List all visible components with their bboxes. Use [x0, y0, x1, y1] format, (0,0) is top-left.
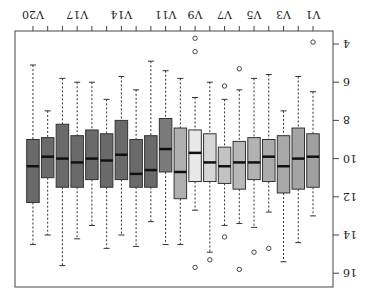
box-v6 [233, 67, 246, 272]
box-body [130, 140, 143, 188]
box-v4 [263, 75, 276, 251]
x-tick-label: V7 [217, 8, 233, 21]
y-tick-label: 14 [343, 228, 357, 241]
box-body [27, 140, 40, 203]
x-tick-label: V5 [247, 8, 263, 21]
box-body [174, 128, 187, 199]
box-v3 [277, 111, 290, 262]
x-tick-label: V17 [66, 8, 89, 21]
box-v20 [27, 65, 40, 245]
outlier-point [252, 250, 256, 254]
box-v1 [307, 40, 320, 216]
outlier-point [208, 258, 212, 262]
chart-canvas: 46810121416 V1V3V5V7V9V11V14V17V20 [0, 0, 366, 293]
outlier-point [193, 36, 197, 40]
box-body [115, 120, 128, 179]
box-v17 [71, 82, 84, 239]
y-tick-label: 16 [343, 266, 357, 279]
outlier-point [193, 265, 197, 269]
y-tick-label: 10 [343, 152, 357, 165]
box-body [248, 138, 261, 180]
box-v7 [218, 84, 231, 239]
box-body [263, 140, 276, 182]
box-v5 [248, 78, 261, 254]
box-body [56, 124, 69, 187]
outlier-point [267, 246, 271, 250]
y-tick-label: 4 [343, 37, 350, 50]
x-axis: V1V3V5V7V9V11V14V17V20 [22, 8, 322, 31]
box-body [86, 130, 99, 180]
outlier-point [193, 49, 197, 53]
box-body [233, 141, 246, 189]
x-tick-label: V1 [306, 8, 322, 21]
box-v11 [159, 71, 172, 245]
box-v8 [204, 82, 217, 262]
box-body [145, 136, 158, 188]
y-tick-label: 6 [343, 75, 350, 88]
outlier-point [311, 40, 315, 44]
box-v15 [100, 99, 112, 248]
box-v14 [115, 76, 128, 235]
box-body [204, 134, 217, 182]
outlier-point [237, 267, 241, 271]
box-v18 [56, 78, 69, 265]
boxes [27, 36, 320, 272]
x-tick-label: V11 [155, 8, 178, 21]
box-body [307, 134, 320, 187]
box-v12 [145, 61, 158, 221]
box-v2 [292, 76, 305, 242]
outlier-point [222, 235, 226, 239]
box-body [159, 118, 172, 171]
outlier-point [222, 84, 226, 88]
outlier-point [237, 67, 241, 71]
box-v10 [174, 78, 187, 244]
x-tick-label: V14 [110, 8, 133, 21]
box-body [277, 136, 290, 193]
boxplot-chart: 46810121416 V1V3V5V7V9V11V14V17V20 [0, 0, 366, 293]
box-v16 [86, 82, 99, 225]
box-v19 [41, 111, 54, 235]
box-v9 [189, 36, 202, 270]
box-body [189, 130, 202, 182]
x-tick-label: V20 [22, 8, 45, 21]
x-tick-label: V9 [188, 8, 204, 21]
y-axis: 46810121416 [333, 37, 357, 279]
box-v13 [130, 90, 143, 247]
x-tick-label: V3 [276, 8, 292, 21]
y-tick-label: 8 [343, 113, 350, 126]
y-tick-label: 12 [343, 190, 357, 203]
